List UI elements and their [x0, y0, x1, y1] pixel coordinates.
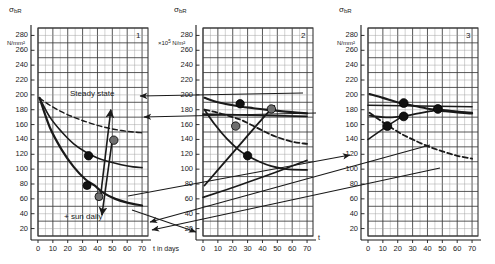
y-tick-label: 20	[171, 225, 193, 233]
y-tick-label: 240	[6, 61, 28, 69]
y-tick-label: 100	[6, 165, 28, 173]
x-tick-label: 70	[300, 245, 314, 253]
y-tick-label: 260	[6, 46, 28, 54]
panel-number-3: 3	[466, 32, 470, 40]
x-tick-label: 70	[465, 245, 479, 253]
y-tick-label: 140	[6, 135, 28, 143]
x-tick-label: 20	[391, 245, 405, 253]
y-tick-label: 180	[6, 106, 28, 114]
y-axis-title-panel-3: σbR	[339, 6, 352, 14]
y-tick-label: 280	[336, 31, 358, 39]
y-tick-label: 80	[6, 180, 28, 188]
y-tick-label: 280	[171, 31, 193, 39]
x-tick-label: 70	[135, 245, 149, 253]
units-prefix: ×10	[158, 40, 168, 46]
panel-2: σbR×105 N/m²2802602402202001801601401201…	[165, 0, 330, 264]
x-tick-label: 10	[46, 245, 60, 253]
y-tick-label: 200	[336, 91, 358, 99]
x-tick-label: 60	[285, 245, 299, 253]
y-tick-label: 200	[171, 91, 193, 99]
y-tick-label: 100	[171, 165, 193, 173]
y-tick-label: 260	[171, 46, 193, 54]
x-tick-label: 10	[211, 245, 225, 253]
y-tick-label: 220	[6, 76, 28, 84]
x-tick-label: 0	[361, 245, 375, 253]
x-tick-label: 30	[76, 245, 90, 253]
y-tick-label: 220	[171, 76, 193, 84]
y-tick-label: 180	[336, 106, 358, 114]
y-tick-label: 140	[171, 135, 193, 143]
y-tick-label: 80	[171, 180, 193, 188]
x-axis-title-panel-2: t	[318, 234, 320, 241]
y-axis-subscript: bR	[344, 8, 352, 14]
x-tick-label: 40	[255, 245, 269, 253]
y-tick-label: 40	[6, 210, 28, 218]
x-tick-label: 10	[376, 245, 390, 253]
y-tick-label: 120	[171, 150, 193, 158]
x-tick-label: 40	[90, 245, 104, 253]
y-tick-label: 240	[336, 61, 358, 69]
y-tick-label: 140	[336, 135, 358, 143]
y-axis-title-panel-2: σbR	[174, 6, 187, 14]
x-tick-label: 50	[105, 245, 119, 253]
y-tick-label: 100	[336, 165, 358, 173]
y-tick-label: 120	[6, 150, 28, 158]
y-axis-subscript: bR	[179, 8, 187, 14]
annotation-steady-state: Steady state	[70, 90, 114, 98]
y-axis-subscript: bR	[14, 8, 22, 14]
y-tick-label: 160	[6, 121, 28, 129]
x-tick-label: 20	[61, 245, 75, 253]
y-tick-label: 60	[6, 195, 28, 203]
x-tick-label: 30	[241, 245, 255, 253]
x-tick-label: 60	[450, 245, 464, 253]
y-tick-label: 200	[6, 91, 28, 99]
y-tick-label: 240	[171, 61, 193, 69]
y-tick-label: 20	[336, 225, 358, 233]
y-tick-label: 120	[336, 150, 358, 158]
y-tick-label: 40	[171, 210, 193, 218]
y-tick-label: 60	[171, 195, 193, 203]
x-tick-label: 50	[435, 245, 449, 253]
y-axis-title-panel-1: σbR	[9, 6, 22, 14]
y-tick-label: 160	[336, 121, 358, 129]
annotation-sun-daily: + sun daily	[64, 213, 102, 221]
panel-3: σbRN/mm²28026024022020018016014012010080…	[330, 0, 495, 264]
y-tick-label: 80	[336, 180, 358, 188]
x-tick-label: 30	[406, 245, 420, 253]
y-tick-label: 180	[171, 106, 193, 114]
x-tick-label: 20	[226, 245, 240, 253]
y-tick-label: 20	[6, 225, 28, 233]
panel-number-1: 1	[136, 32, 140, 40]
y-tick-label: 60	[336, 195, 358, 203]
x-tick-label: 40	[420, 245, 434, 253]
y-tick-label: 280	[6, 31, 28, 39]
panel-1: σbRN/mm²28026024022020018016014012010080…	[0, 0, 165, 264]
x-tick-label: 0	[196, 245, 210, 253]
y-tick-label: 220	[336, 76, 358, 84]
x-tick-label: 60	[120, 245, 134, 253]
y-tick-label: 160	[171, 121, 193, 129]
y-tick-label: 260	[336, 46, 358, 54]
x-tick-label: 0	[31, 245, 45, 253]
x-tick-label: 50	[270, 245, 284, 253]
y-tick-label: 40	[336, 210, 358, 218]
panel-number-2: 2	[301, 32, 305, 40]
